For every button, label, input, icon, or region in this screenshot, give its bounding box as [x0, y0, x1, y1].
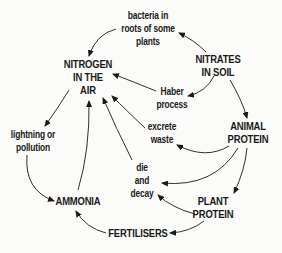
arrow-ammonia-to-nitrogen	[78, 101, 89, 190]
process-label-line: and	[130, 174, 153, 187]
arrow-plant-to-decay	[158, 195, 195, 214]
process-die-and-decay: die and decay	[130, 161, 153, 200]
process-label-line: decay	[130, 187, 153, 200]
arrow-animal-to-decay	[162, 148, 238, 184]
node-label-line: PROTEIN	[228, 133, 269, 146]
node-label-line: PLANT	[193, 195, 234, 208]
node-animal-protein: ANIMAL PROTEIN	[228, 120, 269, 146]
nitrogen-cycle-diagram: NITROGEN IN THE AIR NITRATES IN SOIL ANI…	[0, 0, 282, 253]
process-bacteria: bacteria in roots of some plants	[121, 9, 174, 48]
node-fertilisers: FERTILISERS	[108, 227, 168, 240]
process-label-line: waste	[148, 133, 176, 146]
node-label-line: PROTEIN	[193, 208, 234, 221]
node-nitrates-in-soil: NITRATES IN SOIL	[195, 53, 240, 79]
arrow-haber-to-nitrogen	[113, 74, 156, 91]
process-label-line: pollution	[11, 141, 55, 154]
arrow-animal-to-plant	[234, 148, 247, 193]
process-excrete-waste: excrete waste	[148, 120, 176, 146]
node-ammonia: AMMONIA	[56, 195, 101, 208]
node-plant-protein: PLANT PROTEIN	[193, 195, 234, 221]
arrow-lightning-to-ammonia	[27, 155, 54, 201]
process-label-line: excrete	[148, 120, 176, 133]
arrow-decay-to-nitrogen	[103, 98, 132, 160]
node-label-line: IN THE	[64, 71, 112, 84]
node-label-line: AIR	[64, 84, 112, 97]
arrow-bacteria-to-nitrogen	[89, 29, 116, 56]
node-label-line: IN SOIL	[195, 66, 240, 79]
process-label-line: lightning or	[11, 128, 55, 141]
arrow-plant-to-fertilisers	[170, 221, 204, 233]
node-nitrogen-in-the-air: NITROGEN IN THE AIR	[64, 58, 112, 97]
arrow-nitrates-to-bacteria	[179, 33, 206, 52]
process-label-line: die	[130, 161, 153, 174]
arrow-nitrates-to-haber	[188, 76, 214, 96]
arrow-fertilisers-to-ammonia	[76, 211, 106, 233]
node-label-line: NITRATES	[195, 53, 240, 66]
process-label-line: roots of some	[121, 22, 174, 35]
process-label-line: plants	[121, 35, 174, 48]
node-label-line: AMMONIA	[56, 195, 101, 208]
node-label-line: ANIMAL	[228, 120, 269, 133]
process-label-line: process	[156, 98, 187, 111]
arrow-excrete-to-nitrogen	[112, 96, 145, 128]
process-label-line: Haber	[156, 85, 187, 98]
node-label-line: FERTILISERS	[108, 227, 168, 240]
arrow-animal-to-excrete	[177, 145, 229, 153]
node-label-line: NITROGEN	[64, 58, 112, 71]
process-label-line: bacteria in	[121, 9, 174, 22]
process-lightning-or-pollution: lightning or pollution	[11, 128, 55, 154]
arrow-nitrates-to-animal	[230, 80, 247, 118]
process-haber: Haber process	[156, 85, 187, 111]
